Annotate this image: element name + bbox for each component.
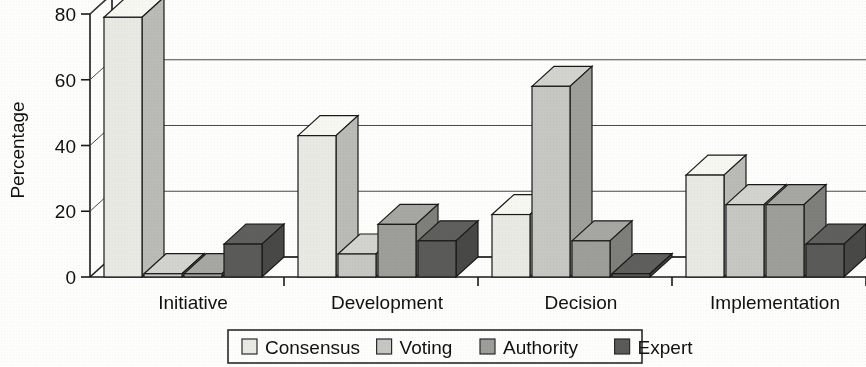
- bar-front-face: [298, 136, 336, 277]
- y-tick-label-60: 60: [55, 70, 76, 91]
- x-axis-group: InitiativeDevelopmentDecisionImplementat…: [158, 277, 866, 313]
- legend-label-authority: Authority: [503, 337, 578, 358]
- bar-front-face: [418, 241, 456, 277]
- x-tick-label-implementation: Implementation: [710, 292, 840, 313]
- y-tick-label-40: 40: [55, 136, 76, 157]
- bar-front-face: [338, 254, 376, 277]
- bar-chart: 020406080PercentageInitiativeDevelopment…: [0, 0, 866, 367]
- bar-front-face: [532, 86, 570, 277]
- chart-container: 020406080PercentageInitiativeDevelopment…: [0, 0, 866, 367]
- legend-swatch-consensus: [242, 339, 257, 354]
- bar-group-initiative: [104, 0, 284, 277]
- bar-front-face: [612, 274, 650, 277]
- bar-front-face: [726, 205, 764, 277]
- bar-front-face: [492, 215, 530, 277]
- y-tick-label-20: 20: [55, 201, 76, 222]
- bars-group: [104, 0, 866, 277]
- bar-side-face: [142, 0, 164, 277]
- bar-front-face: [572, 241, 610, 277]
- bar-front-face: [378, 224, 416, 277]
- x-tick-label-initiative: Initiative: [158, 292, 228, 313]
- bar-front-face: [766, 205, 804, 277]
- x-tick-label-development: Development: [331, 292, 444, 313]
- legend-label-consensus: Consensus: [265, 337, 360, 358]
- bar-front-face: [144, 274, 182, 277]
- bar-front-face: [806, 244, 844, 277]
- bar-front-face: [224, 244, 262, 277]
- legend-label-voting: Voting: [400, 337, 453, 358]
- bar-group-implementation: [686, 155, 866, 277]
- bar-front-face: [184, 274, 222, 277]
- bar-group-development: [298, 116, 478, 277]
- x-tick-label-decision: Decision: [545, 292, 618, 313]
- legend-swatch-expert: [615, 339, 630, 354]
- bar-front-face: [104, 17, 142, 277]
- legend-swatch-authority: [480, 339, 495, 354]
- y-tick-label-0: 0: [65, 267, 76, 288]
- bar: [224, 224, 284, 277]
- y-axis-title: Percentage: [7, 101, 28, 198]
- y-axis-group: 020406080: [55, 4, 90, 288]
- bar-front-face: [686, 175, 724, 277]
- bar: [104, 0, 164, 277]
- y-tick-label-80: 80: [55, 4, 76, 25]
- legend: ConsensusVotingAuthorityExpert: [228, 330, 693, 363]
- bar-group-decision: [492, 66, 672, 277]
- wall-top-depth-edge: [90, 0, 112, 14]
- legend-swatch-voting: [377, 339, 392, 354]
- legend-label-expert: Expert: [638, 337, 694, 358]
